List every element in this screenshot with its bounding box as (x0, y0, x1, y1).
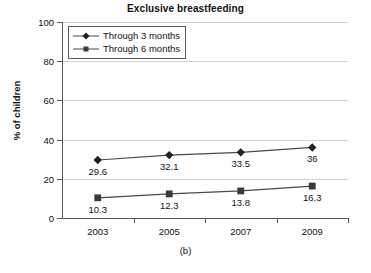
square-marker-icon (72, 43, 100, 55)
y-axis-line (62, 22, 63, 219)
gridline (62, 100, 348, 101)
y-axis-title: % of children (11, 66, 22, 156)
data-point-label: 12.3 (145, 200, 193, 211)
gridline (62, 140, 348, 141)
legend-label-series-2: Through 6 months (100, 43, 180, 54)
data-point-label: 13.8 (217, 197, 265, 208)
data-point-label: 29.6 (74, 166, 122, 177)
y-tick-label: 80 (22, 56, 54, 67)
chart-title: Exclusive breastfeeding (0, 3, 371, 14)
x-tick-label: 2003 (68, 226, 128, 237)
y-tick-mark (57, 100, 62, 101)
y-tick-label: 60 (22, 95, 54, 106)
y-tick-label: 100 (22, 17, 54, 28)
y-tick-mark (57, 22, 62, 23)
y-tick-label: 20 (22, 173, 54, 184)
x-tick-mark (205, 218, 206, 223)
chart-legend: Through 3 months Through 6 months (68, 26, 186, 59)
y-tick-mark (57, 179, 62, 180)
legend-item-series-2: Through 6 months (72, 42, 180, 55)
diamond-marker-icon (72, 30, 100, 42)
x-tick-mark (134, 218, 135, 223)
legend-label-series-1: Through 3 months (100, 30, 180, 41)
data-point-label: 16.3 (288, 192, 336, 203)
x-tick-mark (348, 218, 349, 223)
y-tick-mark (57, 218, 62, 219)
gridline (62, 179, 348, 180)
data-point-label: 36 (288, 153, 336, 164)
chart-container: Exclusive breastfeeding % of children Th… (0, 0, 371, 273)
y-tick-mark (57, 61, 62, 62)
data-point-label: 10.3 (74, 204, 122, 215)
x-tick-label: 2005 (139, 226, 199, 237)
figure-caption: (b) (0, 245, 371, 256)
gridline (62, 61, 348, 62)
x-tick-mark (277, 218, 278, 223)
x-tick-label: 2009 (282, 226, 342, 237)
y-tick-label: 40 (22, 134, 54, 145)
x-tick-label: 2007 (211, 226, 271, 237)
y-tick-mark (57, 140, 62, 141)
gridline (62, 22, 348, 23)
data-point-label: 32.1 (145, 161, 193, 172)
legend-item-series-1: Through 3 months (72, 29, 180, 42)
data-point-label: 33.5 (217, 158, 265, 169)
y-tick-label: 0 (22, 213, 54, 224)
